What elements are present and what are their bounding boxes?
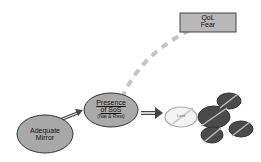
diagram-canvas: QoL Fear Presence of SoS (Nat & Rest) Ad… <box>0 0 261 162</box>
qol-fear-label: QoL Fear <box>180 14 236 29</box>
presence-label: Presence of SoS (Nat & Rest) <box>84 99 138 119</box>
loss-label: Loss <box>168 114 194 118</box>
dark-oval-cluster <box>198 93 253 143</box>
dashed-connector <box>122 30 190 98</box>
mirror-label: Adequate Mirror <box>17 127 73 142</box>
